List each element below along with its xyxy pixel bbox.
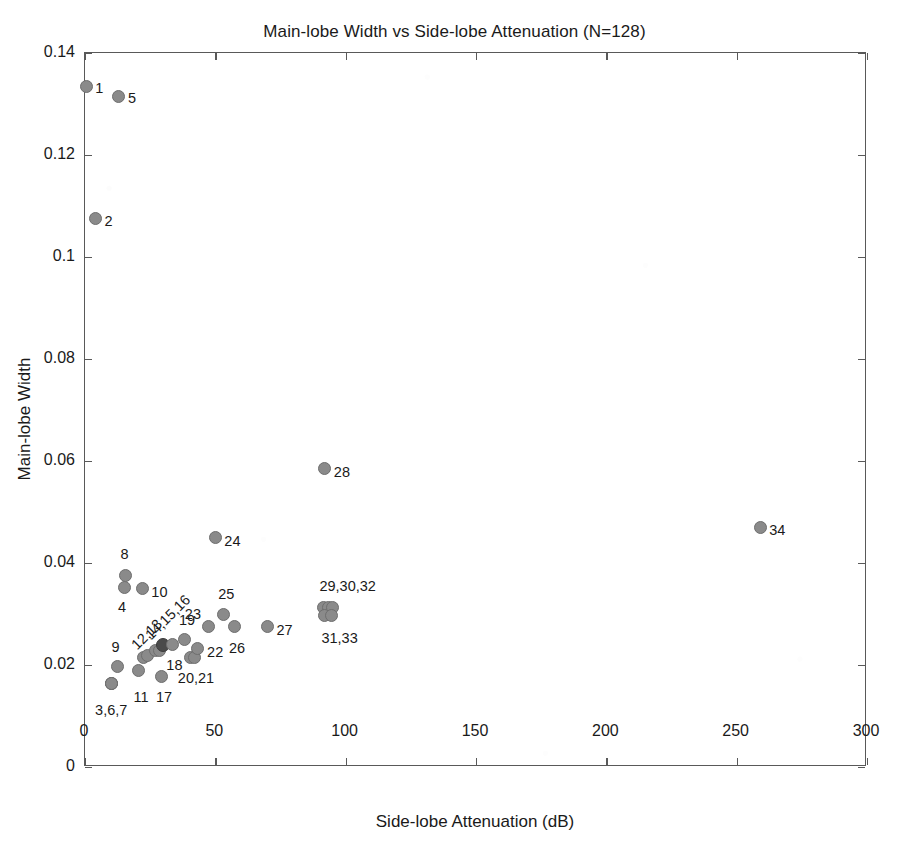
point-label: 24 [224,534,240,549]
x-tick [346,758,347,765]
x-tick-top [215,53,216,60]
x-tick [606,758,607,765]
y-tick-right [858,665,865,666]
x-tick-label: 150 [462,722,489,740]
y-tick-right [858,767,865,768]
y-tick-right [858,53,865,54]
scatter-point [118,581,131,594]
scatter-point [112,90,125,103]
y-tick [85,563,92,564]
point-label: 28 [334,465,350,480]
scatter-point [166,638,179,651]
point-label: 4 [118,600,126,615]
y-tick-right [858,257,865,258]
x-tick [737,758,738,765]
y-tick [85,257,92,258]
x-tick [476,758,477,765]
y-tick-label: 0.04 [44,553,75,571]
point-label: 20,21 [178,671,214,686]
x-tick-top [606,53,607,60]
y-tick-right [858,461,865,462]
scatter-point [89,212,102,225]
x-tick-top [476,53,477,60]
y-tick-label: 0.08 [44,349,75,367]
scatter-point [80,80,93,93]
y-tick [85,767,92,768]
y-tick [85,53,92,54]
scatter-point [228,620,241,633]
y-tick-right [858,563,865,564]
y-tick-label: 0 [66,757,75,775]
scatter-point [318,462,331,475]
point-label: 29,30,32 [319,579,375,594]
y-tick-right [858,155,865,156]
point-label: 22 [207,645,223,660]
scatter-point [754,521,767,534]
point-label: 5 [128,91,136,106]
x-tick-top [737,53,738,60]
y-tick-label: 0.06 [44,451,75,469]
point-label: 26 [229,641,245,656]
x-axis-label: Side-lobe Attenuation (dB) [84,812,866,832]
x-tick [85,758,86,765]
point-label: 3,6,7 [95,703,127,718]
scatter-point [209,531,222,544]
x-tick-top [867,53,868,60]
y-tick-label: 0.02 [44,655,75,673]
point-label: 2 [104,214,112,229]
scatter-point [132,664,145,677]
x-tick-top [346,53,347,60]
x-tick [867,758,868,765]
y-tick [85,359,92,360]
y-tick-label: 0.14 [44,43,75,61]
point-label: 31,33 [321,631,357,646]
x-tick-label: 50 [205,722,223,740]
y-tick [85,665,92,666]
point-label: 25 [218,587,234,602]
point-label: 17 [156,690,172,705]
x-tick-label: 100 [331,722,358,740]
scatter-point [191,642,204,655]
y-tick [85,155,92,156]
scatter-point [119,569,132,582]
figure-canvas: Main-lobe Width vs Side-lobe Attenuation… [0,0,909,856]
plot-area: 1528410912,1314,15,161117181920,21222324… [84,52,866,766]
y-axis-label: Main-lobe Width [15,249,35,589]
point-label: 8 [120,547,128,562]
scatter-point [325,609,338,622]
point-label: 1 [95,81,103,96]
y-tick-label: 0.12 [44,145,75,163]
y-tick [85,461,92,462]
point-label: 10 [151,585,167,600]
scatter-point [136,582,149,595]
x-tick-label: 0 [80,722,89,740]
y-tick-label: 0.1 [53,247,75,265]
point-label: 23 [185,607,201,622]
scatter-point [111,660,124,673]
x-tick-label: 200 [592,722,619,740]
x-tick-label: 250 [722,722,749,740]
point-label: 9 [112,640,120,655]
point-label: 27 [276,623,292,638]
x-tick-label: 300 [853,722,880,740]
point-label: 11 [133,690,148,705]
scatter-point [105,677,118,690]
chart-title: Main-lobe Width vs Side-lobe Attenuation… [0,22,909,42]
scatter-point [178,633,191,646]
x-tick [215,758,216,765]
scatter-point [217,608,230,621]
y-tick-right [858,359,865,360]
scatter-point [202,620,215,633]
scatter-point [261,620,274,633]
point-label: 34 [769,523,785,538]
